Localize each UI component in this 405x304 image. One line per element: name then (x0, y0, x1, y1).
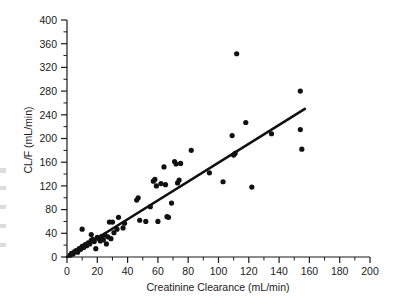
data-point (80, 227, 85, 232)
x-axis-tick-labels: 020406080100120140160180200 (64, 265, 379, 277)
data-point (298, 89, 303, 94)
x-tick-label-60: 60 (152, 265, 164, 277)
x-tick-label-120: 120 (240, 265, 258, 277)
scatter-plot: 020406080100120140160180200 040801201602… (0, 0, 405, 304)
x-tick-label-140: 140 (270, 265, 288, 277)
data-point (104, 241, 109, 246)
y-tick-label-40: 40 (45, 227, 57, 239)
data-point (173, 161, 178, 166)
data-point (120, 225, 125, 230)
data-point (189, 148, 194, 153)
data-point (234, 51, 239, 56)
data-point (93, 246, 98, 251)
x-tick-label-180: 180 (331, 265, 349, 277)
data-point (136, 195, 141, 200)
regression-line-group (67, 109, 305, 257)
data-point (177, 177, 182, 182)
data-point (110, 219, 115, 224)
data-point (155, 219, 160, 224)
data-point (243, 120, 248, 125)
y-tick-label-320: 320 (39, 61, 57, 73)
regression-line (67, 109, 305, 257)
data-point (154, 183, 159, 188)
data-point (101, 237, 106, 242)
y-tick-label-400: 400 (39, 14, 57, 26)
y-axis-tick-labels: 04080120160200240280320360400 (39, 14, 57, 263)
y-tick-label-80: 80 (45, 203, 57, 215)
data-point (108, 236, 113, 241)
data-point (166, 215, 171, 220)
scan-edge-artifact-4 (0, 224, 6, 228)
data-points-group (67, 51, 304, 258)
scan-edge-artifact-5 (0, 243, 6, 247)
data-point (143, 219, 148, 224)
y-tick-label-0: 0 (51, 251, 57, 263)
scan-edge-artifact-1 (0, 168, 6, 173)
scan-edge-artifact-2 (0, 186, 6, 190)
data-point (169, 200, 174, 205)
data-point (163, 182, 168, 187)
data-point (207, 170, 212, 175)
figure-container: 020406080100120140160180200 040801201602… (0, 0, 405, 304)
y-tick-label-160: 160 (39, 156, 57, 168)
x-tick-label-200: 200 (361, 265, 379, 277)
x-tick-label-0: 0 (64, 265, 70, 277)
y-tick-label-200: 200 (39, 132, 57, 144)
data-point (249, 184, 254, 189)
y-tick-label-240: 240 (39, 109, 57, 121)
data-point (298, 127, 303, 132)
data-point (152, 177, 157, 182)
x-tick-label-160: 160 (301, 265, 319, 277)
x-tick-label-20: 20 (91, 265, 103, 277)
x-tick-label-40: 40 (122, 265, 134, 277)
y-tick-label-280: 280 (39, 85, 57, 97)
data-point (137, 218, 142, 223)
y-axis-title: CL/F (mL/min) (22, 106, 34, 173)
data-point (299, 147, 304, 152)
data-point (161, 164, 166, 169)
x-tick-label-80: 80 (182, 265, 194, 277)
data-point (158, 181, 163, 186)
data-point (116, 215, 121, 220)
x-axis-title: Creatinine Clearance (mL/min) (147, 281, 290, 293)
y-tick-label-360: 360 (39, 38, 57, 50)
data-point (230, 133, 235, 138)
data-point (89, 232, 94, 237)
y-tick-label-120: 120 (39, 180, 57, 192)
data-point (220, 179, 225, 184)
scan-edge-artifact-3 (0, 205, 6, 209)
x-tick-label-100: 100 (210, 265, 228, 277)
data-point (178, 161, 183, 166)
